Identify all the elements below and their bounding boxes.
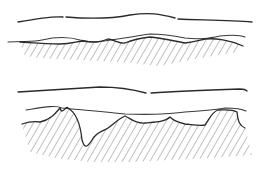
top-upper-line bbox=[18, 14, 252, 22]
diagram-canvas bbox=[0, 0, 261, 171]
bottom-panel bbox=[18, 87, 252, 162]
top-panel bbox=[8, 14, 252, 66]
bottom-upper-line bbox=[18, 87, 247, 93]
bottom-hatch-region bbox=[22, 107, 252, 162]
top-hatch-region bbox=[20, 37, 243, 66]
surface-diagram bbox=[0, 0, 261, 171]
